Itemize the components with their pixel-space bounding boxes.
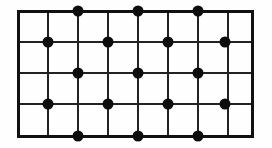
lattice-svg: [0, 0, 272, 148]
vertex-dot-r5-c2: [73, 131, 84, 142]
lattice-figure: [0, 0, 272, 148]
vertex-dot-r1-c4: [133, 6, 144, 17]
vertex-dot-r1-c6: [193, 6, 204, 17]
vertex-dot-r2-c1: [43, 37, 54, 48]
vertex-dot-r2-c5: [163, 37, 174, 48]
vertex-dot-r4-c1: [43, 99, 54, 110]
vertex-dot-r3-c6: [193, 68, 204, 79]
vertex-dot-r5-c4: [133, 131, 144, 142]
vertex-dot-r1-c2: [73, 6, 84, 17]
vertex-dot-r4-c3: [103, 99, 114, 110]
vertex-dot-r4-c7: [220, 99, 231, 110]
vertex-dot-r4-c5: [163, 99, 174, 110]
vertex-dot-r2-c7: [220, 37, 231, 48]
vertex-dot-r5-c6: [193, 131, 204, 142]
vertex-dot-r3-c2: [73, 68, 84, 79]
vertex-dot-r3-c4: [133, 68, 144, 79]
vertex-dot-r2-c3: [103, 37, 114, 48]
